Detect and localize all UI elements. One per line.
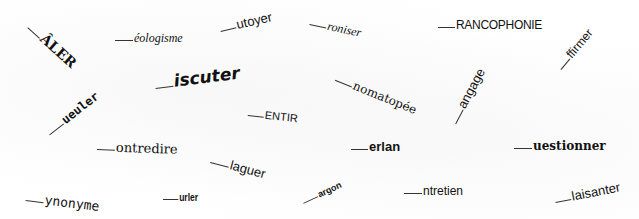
blank-line bbox=[438, 27, 455, 28]
word-item: RANCOPHONIE bbox=[438, 19, 542, 31]
blank-line bbox=[115, 40, 133, 41]
word-puzzle-canvas: ÂLER éologisme utoyer roniser RANCOPHONI… bbox=[0, 0, 639, 219]
blank-line bbox=[309, 24, 326, 29]
blank-line bbox=[26, 200, 44, 203]
blank-line bbox=[163, 199, 178, 200]
blank-line bbox=[248, 115, 264, 118]
blank-line bbox=[404, 193, 422, 194]
background-texture bbox=[0, 0, 639, 219]
word-text: éologisme bbox=[134, 32, 183, 44]
word-text: ontredire bbox=[116, 141, 178, 156]
blank-line bbox=[97, 149, 115, 151]
blank-line bbox=[221, 27, 237, 32]
word-item: uestionner bbox=[514, 140, 606, 152]
word-text: uestionner bbox=[533, 140, 606, 152]
word-text: RANCOPHONIE bbox=[456, 19, 542, 31]
word-item: erlan bbox=[351, 140, 400, 153]
blank-line bbox=[210, 162, 229, 168]
blank-line bbox=[514, 148, 532, 149]
word-text: erlan bbox=[369, 140, 400, 153]
word-item: urler bbox=[163, 193, 198, 203]
blank-line bbox=[156, 86, 174, 89]
word-item: ontredire bbox=[97, 140, 178, 156]
word-item: éologisme bbox=[115, 32, 183, 44]
word-text: ntretien bbox=[423, 185, 463, 197]
blank-line bbox=[351, 149, 368, 150]
blank-line bbox=[555, 199, 571, 203]
word-text: urler bbox=[179, 193, 198, 203]
word-item: ntretien bbox=[404, 185, 463, 197]
